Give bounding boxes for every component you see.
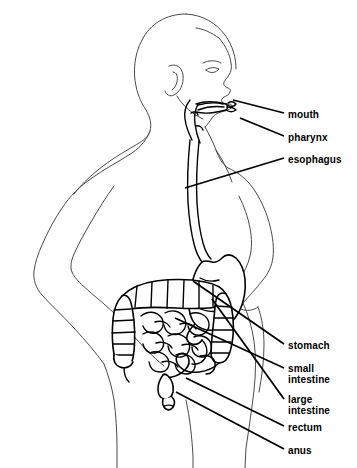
ear [165,65,183,96]
digestive-tract-group [112,100,245,410]
esophagus-leader-line [185,158,284,188]
eye [206,68,219,73]
inner-thigh-contour [186,400,193,468]
palate [198,103,223,105]
ascending-haustra-1 [114,309,131,310]
label-pharynx: pharynx [288,133,328,144]
transverse-haustra-2 [151,282,152,307]
neck-left-outline [92,131,150,178]
label-mouth: mouth [288,110,319,121]
hairline [196,28,219,38]
anal-canal [163,397,175,410]
eyebrow [203,61,221,63]
label-rectum: rectum [288,423,322,434]
label-large-intestine: large intestine [288,395,330,416]
anus-organ [163,397,175,410]
head-outline [74,14,186,194]
left-arm-outline [34,178,104,364]
neck-right-outline [205,127,228,168]
mouth-cavity-organ [196,102,236,113]
label-anus: anus [288,446,312,457]
appendix [124,368,129,382]
label-small-intestine: small intestine [288,364,330,385]
transverse-haustra-4 [183,280,184,308]
small-intestine-coil-1 [141,312,163,333]
body-outline-group [34,14,274,468]
digestive-system-diagram: mouth pharynx esophagus stomach small in… [0,0,357,468]
rectum-organ [158,374,173,399]
right-hip-outline [258,307,264,392]
ascending-haustra-3 [112,332,135,333]
right-torso-side-outline [243,303,256,468]
pharynx-leader-line [240,118,284,136]
label-esophagus: esophagus [288,155,342,166]
left-torso-side-outline [104,364,117,468]
pelvis-contour [131,333,164,366]
ascending-haustra-2 [113,320,134,321]
pharynx-organ [185,100,203,143]
transverse-haustra-3 [167,280,168,308]
larynx-hint [196,126,203,130]
ear-inner [172,72,177,90]
rectum-body [158,374,173,399]
esophagus-wall-left [188,140,202,262]
left-inner-arm-outline [71,186,114,292]
rectum-leader-line [186,378,284,426]
mouth-leader-line [233,100,284,113]
esophagus-organ [188,140,211,262]
esophagus-wall-right [197,141,211,259]
label-stomach: stomach [288,341,330,352]
tongue [198,107,224,110]
pharynx-wall-back [185,100,192,140]
